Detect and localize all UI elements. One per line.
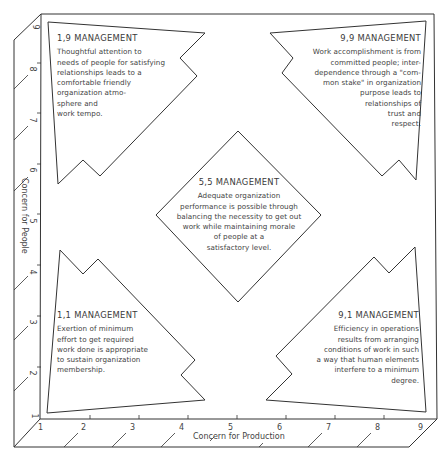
style-1-9-line: relationships leads to a — [57, 68, 165, 78]
style-9-9-line: respect. — [313, 119, 421, 129]
x-tick-9: 9 — [418, 424, 423, 432]
style-1-1-line: to sustain organization — [57, 355, 148, 365]
style-1-9-line: comfortable friendly — [57, 78, 165, 88]
y-tick-8: 8 — [28, 66, 36, 71]
style-9-1-line: Efficiency in operations — [317, 324, 419, 334]
style-1-1-line: Exertion of minimum — [57, 324, 148, 334]
style-5-5-line: satisfactory level. — [166, 243, 312, 253]
style-1-1-line: effort to get required — [57, 335, 148, 345]
y-tick-9: 9 — [31, 24, 39, 29]
x-tick-8: 8 — [375, 424, 380, 432]
x-tick-1: 1 — [38, 424, 43, 432]
style-5-5-line: Adequate organization — [166, 191, 312, 201]
style-9-1-line: a way that human elements — [317, 355, 419, 365]
style-9-9-line: trust and — [313, 109, 421, 119]
x-tick-5: 5 — [228, 424, 233, 432]
y-tick-3: 3 — [28, 319, 36, 324]
y-tick-2: 2 — [28, 370, 36, 375]
style-1-9-line: Thoughtful attention to — [57, 47, 165, 57]
style-1-1-line: work done is appropriate — [57, 345, 148, 355]
y-axis-label: Concern for People — [20, 178, 29, 254]
style-1-1: 1,1 MANAGEMENT Exertion of minimum effor… — [57, 310, 148, 376]
y-tick-7: 7 — [28, 117, 36, 122]
style-1-9-line: organization atmo- — [57, 88, 165, 98]
x-tick-3: 3 — [130, 424, 135, 432]
y-tick-4: 4 — [28, 269, 36, 274]
y-tick-6: 6 — [28, 167, 36, 172]
style-5-5-title: 5,5 MANAGEMENT — [166, 177, 312, 187]
bottom-axis-ticks — [90, 415, 384, 419]
style-9-1: 9,1 MANAGEMENT Efficiency in operations … — [317, 310, 419, 386]
y-tick-1: 1 — [30, 413, 38, 418]
style-9-1-line: conditions of work in such — [317, 345, 419, 355]
x-tick-7: 7 — [326, 424, 331, 432]
style-5-5-line: balancing the necessity to get out — [166, 212, 312, 222]
style-5-5-line: performance is possible through — [166, 202, 312, 212]
style-1-9: 1,9 MANAGEMENT Thoughtful attention to n… — [57, 33, 165, 119]
style-9-9-line: purpose leads to — [313, 88, 421, 98]
style-5-5: 5,5 MANAGEMENT Adequate organization per… — [166, 177, 312, 253]
x-tick-2: 2 — [81, 424, 86, 432]
style-9-9-line: mon stake" in organization — [313, 78, 421, 88]
style-1-9-line: needs of people for satisfying — [57, 58, 165, 68]
x-tick-4: 4 — [179, 424, 184, 432]
style-9-9: 9,9 MANAGEMENT Work accomplishment is fr… — [313, 33, 421, 130]
style-9-9-line: relationships of — [313, 99, 421, 109]
style-9-9-line: committed people; inter- — [313, 58, 421, 68]
style-5-5-line: of people at a — [166, 232, 312, 242]
style-1-9-title: 1,9 MANAGEMENT — [57, 33, 165, 43]
style-5-5-line: work while maintaining morale — [166, 222, 312, 232]
style-9-1-line: interfere to a minimum — [317, 365, 419, 375]
style-1-1-title: 1,1 MANAGEMENT — [57, 310, 148, 320]
style-1-9-line: work tempo. — [57, 109, 165, 119]
style-9-1-line: results from arranging — [317, 335, 419, 345]
style-9-1-title: 9,1 MANAGEMENT — [317, 310, 419, 320]
style-9-9-line: dependence through a "com- — [313, 68, 421, 78]
style-9-1-line: degree. — [317, 376, 419, 386]
style-9-9-title: 9,9 MANAGEMENT — [313, 33, 421, 43]
style-1-9-line: sphere and — [57, 99, 165, 109]
style-9-9-line: Work accomplishment is from — [313, 47, 421, 57]
x-axis-label: Concern for Production — [193, 432, 285, 441]
style-1-1-line: membership. — [57, 365, 148, 375]
x-tick-6: 6 — [277, 424, 282, 432]
